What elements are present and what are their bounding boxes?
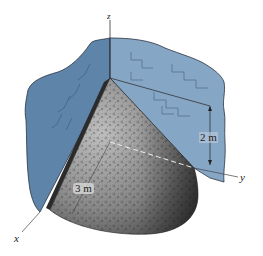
x-axis-label: x xyxy=(14,233,19,244)
height-dimension-label: 2 m xyxy=(199,132,218,143)
cone-in-corner-diagram: z y x 2 m 3 m xyxy=(0,0,263,256)
y-axis-label: y xyxy=(240,172,245,183)
z-axis-label: z xyxy=(107,12,111,21)
x-axis xyxy=(22,212,40,232)
radius-dimension-label: 3 m xyxy=(73,183,94,194)
